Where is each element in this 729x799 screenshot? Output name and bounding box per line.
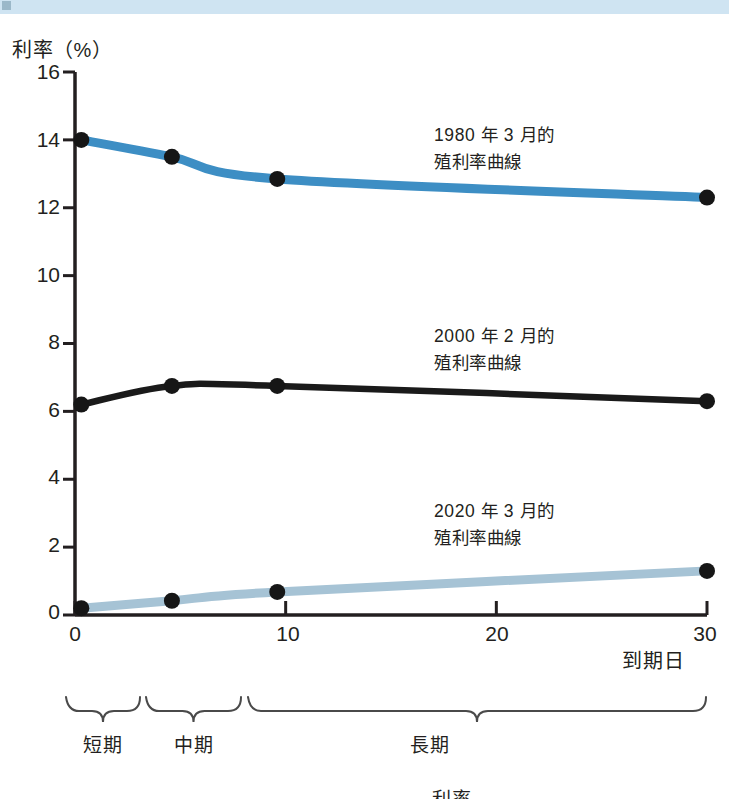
series-label-2020-line1: 2020 年 3 月的: [434, 501, 555, 521]
y-tick-label-14: 14: [26, 128, 60, 152]
y-tick-label-12: 12: [26, 195, 60, 219]
top-banner: [0, 0, 729, 14]
y-tick-label-6: 6: [26, 398, 60, 422]
chart-axes: [75, 72, 707, 615]
series-label-2000: 2000 年 2 月的 殖利率曲線: [434, 323, 555, 377]
chart-figure: 利率（%） 16 14 12 10 8 6 4 2 0 0 10 20 30 到…: [0, 0, 729, 799]
series-label-1980: 1980 年 3 月的 殖利率曲線: [434, 122, 555, 176]
x-tick-label-30: 30: [680, 622, 729, 646]
y-axis-ticks: [63, 72, 75, 615]
term-label-medium: 中期: [147, 730, 241, 757]
x-tick-label-0: 0: [50, 622, 100, 646]
data-point-1-0: [73, 397, 89, 413]
y-tick-label-4: 4: [26, 465, 60, 489]
footer-cut-text: 利率: [432, 784, 472, 799]
data-point-0-2: [269, 171, 285, 187]
term-brace-短期: [66, 697, 140, 722]
y-tick-label-2: 2: [26, 533, 60, 557]
series-label-2000-line2: 殖利率曲線: [434, 350, 555, 377]
y-axis-title: 利率（%）: [12, 34, 112, 63]
term-brace-長期: [248, 697, 706, 722]
y-tick-label-10: 10: [26, 263, 60, 287]
series-label-1980-line1: 1980 年 3 月的: [434, 125, 555, 145]
series-label-2020-line2: 殖利率曲線: [434, 525, 555, 552]
data-point-0-0: [73, 132, 89, 148]
x-axis-title: 到期日: [622, 645, 685, 674]
x-tick-label-10: 10: [263, 622, 313, 646]
x-tick-label-20: 20: [472, 622, 522, 646]
chart-series-group: [81, 140, 707, 608]
data-point-0-3: [699, 190, 715, 206]
y-tick-label-16: 16: [26, 60, 60, 84]
data-point-0-1: [164, 149, 180, 165]
data-point-2-1: [164, 593, 180, 609]
y-tick-label-0: 0: [26, 600, 60, 624]
data-point-1-1: [164, 378, 180, 394]
series-line-2: [81, 571, 707, 608]
term-label-short: 短期: [58, 730, 148, 757]
x-axis-ticks: [75, 601, 707, 615]
term-brace-中期: [146, 697, 241, 722]
series-line-1: [81, 384, 707, 405]
term-label-long: 長期: [380, 730, 480, 757]
data-point-1-2: [269, 378, 285, 394]
y-tick-label-8: 8: [26, 330, 60, 354]
data-point-2-0: [73, 600, 89, 616]
data-point-1-3: [699, 393, 715, 409]
series-line-0: [81, 140, 707, 198]
term-braces-group: [66, 697, 706, 722]
banner-square-icon: [2, 1, 11, 10]
series-label-2000-line1: 2000 年 2 月的: [434, 326, 555, 346]
series-label-1980-line2: 殖利率曲線: [434, 149, 555, 176]
data-point-2-2: [269, 584, 285, 600]
chart-markers-group: [73, 132, 715, 616]
data-point-2-3: [699, 563, 715, 579]
chart-canvas: [0, 0, 729, 799]
series-label-2020: 2020 年 3 月的 殖利率曲線: [434, 498, 555, 552]
